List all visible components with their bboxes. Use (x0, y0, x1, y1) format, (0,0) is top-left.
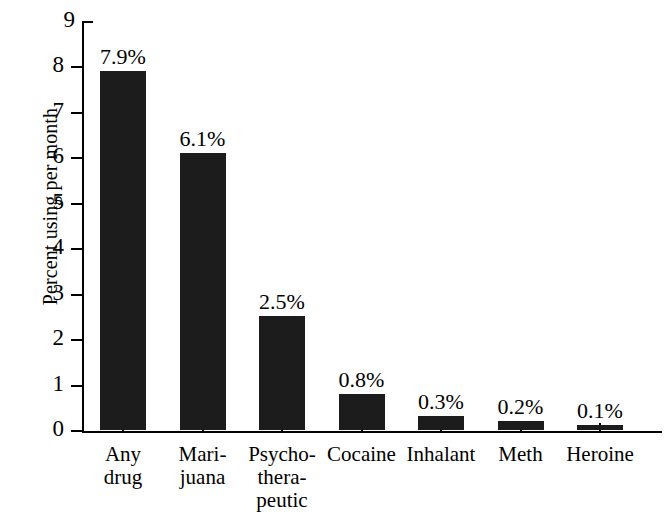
y-axis-tick-label: 4 (34, 235, 64, 258)
bar (577, 425, 623, 430)
bar-value-label: 0.8% (317, 369, 407, 391)
bar-value-label: 0.3% (396, 391, 486, 413)
y-axis-tick: 0 (71, 430, 82, 432)
bar-value-label: 2.5% (237, 291, 327, 313)
bar-value-label: 6.1% (158, 128, 248, 150)
y-axis-tick-label: 0 (34, 417, 64, 440)
y-axis-tick-label: 6 (34, 144, 64, 167)
bar-value-label: 0.2% (476, 396, 566, 418)
y-axis-tick: 9 (82, 21, 93, 23)
y-axis-tick: 1 (71, 385, 82, 387)
y-axis-tick-label: 8 (34, 53, 64, 76)
plot-area: 0123456789 7.9%6.1%2.5%0.8%0.3%0.2%0.1% (82, 22, 662, 432)
bar (259, 316, 305, 430)
bar-value-label: 7.9% (78, 46, 168, 68)
y-axis-tick-label: 5 (34, 190, 64, 213)
y-axis-tick-label: 3 (34, 281, 64, 304)
bar (100, 71, 146, 430)
bar (339, 394, 385, 430)
bar-chart: Percent using per month 0123456789 7.9%6… (0, 0, 670, 527)
bar (180, 153, 226, 430)
y-axis-tick: 5 (71, 203, 82, 205)
y-axis-tick-label: 9 (45, 8, 75, 31)
bar (498, 421, 544, 430)
x-axis-line (82, 431, 662, 433)
bar (418, 416, 464, 430)
y-axis-tick: 7 (71, 112, 82, 114)
y-axis-tick: 2 (71, 339, 82, 341)
y-axis-tick: 3 (71, 294, 82, 296)
x-axis-category-label: Heroine (552, 443, 648, 466)
y-axis-tick: 6 (71, 157, 82, 159)
y-axis-tick: 4 (71, 248, 82, 250)
y-axis-tick-label: 1 (34, 372, 64, 395)
bar-value-label: 0.1% (555, 400, 645, 422)
y-axis-tick-label: 2 (34, 326, 64, 349)
y-axis-line (82, 22, 84, 433)
y-axis-tick-label: 7 (34, 99, 64, 122)
